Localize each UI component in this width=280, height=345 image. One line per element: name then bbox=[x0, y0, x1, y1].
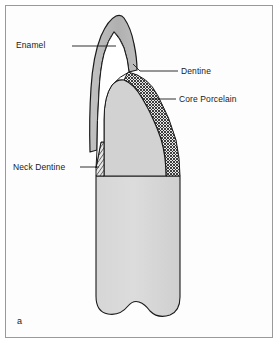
label-dentine: Dentine bbox=[181, 66, 211, 76]
layer-body bbox=[96, 176, 180, 316]
label-core-porcelain: Core Porcelain bbox=[179, 94, 237, 104]
tooth-cross-section-illustration bbox=[0, 0, 280, 345]
figure-letter-label: a bbox=[17, 316, 22, 326]
figure-container: Enamel Dentine Core Porcelain Neck Denti… bbox=[0, 0, 280, 345]
label-enamel: Enamel bbox=[16, 40, 45, 50]
label-neck-dentine: Neck Dentine bbox=[13, 162, 65, 172]
